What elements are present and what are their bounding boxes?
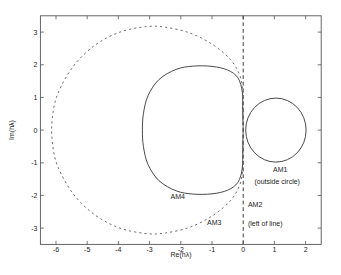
x-tick-label: -4 bbox=[115, 246, 121, 253]
y-tick-label: 1 bbox=[33, 94, 37, 101]
y-tick-label: -1 bbox=[31, 159, 37, 166]
x-tick-label: -5 bbox=[84, 246, 90, 253]
annotation--left-of-line-: (left of line) bbox=[248, 220, 283, 228]
stability-chart-svg: -6-5-4-3-2-1012-3-2-10123 AM1(outside ci… bbox=[0, 0, 341, 275]
plot-box bbox=[40, 16, 321, 245]
annotation-am4: AM4 bbox=[170, 193, 185, 200]
y-tick-label: 3 bbox=[33, 29, 37, 36]
AM4-stability-boundary-curve bbox=[142, 66, 243, 195]
x-tick-label: 0 bbox=[241, 246, 245, 253]
y-tick-label: -2 bbox=[31, 192, 37, 199]
annotation-am2: AM2 bbox=[248, 201, 263, 208]
plot-frame-group bbox=[40, 16, 321, 245]
AM1-stability-boundary-curve bbox=[246, 98, 306, 162]
annotation-am1: AM1 bbox=[273, 166, 288, 173]
y-axis-label: Im(hλ) bbox=[8, 120, 16, 140]
stability-regions-figure: -6-5-4-3-2-1012-3-2-10123 AM1(outside ci… bbox=[0, 0, 341, 275]
curves-group bbox=[52, 16, 306, 245]
annotation--outside-circle-: (outside circle) bbox=[254, 178, 300, 186]
y-tick-label: -3 bbox=[31, 225, 37, 232]
y-tick-label: 0 bbox=[33, 127, 37, 134]
x-tick-label: -1 bbox=[209, 246, 215, 253]
tick-marks-group bbox=[40, 16, 321, 245]
y-tick-label: 2 bbox=[33, 61, 37, 68]
x-tick-label: -3 bbox=[146, 246, 152, 253]
annotation-am3: AM3 bbox=[207, 219, 222, 226]
x-tick-label: 2 bbox=[304, 246, 308, 253]
annotations-group: AM1(outside circle)AM2(left of line)AM3A… bbox=[170, 166, 299, 228]
x-tick-label: 1 bbox=[272, 246, 276, 253]
AM3-stability-boundary-curve bbox=[52, 26, 244, 234]
x-tick-label: -6 bbox=[53, 246, 59, 253]
x-axis-label: Re(hλ) bbox=[170, 251, 191, 259]
